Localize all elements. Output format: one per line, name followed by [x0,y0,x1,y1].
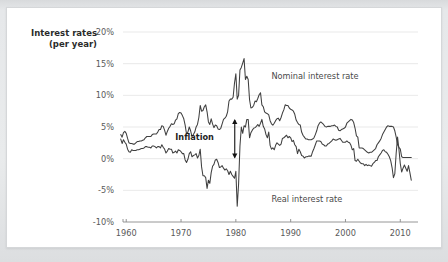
y-axis-title-line1: Interest rates [31,28,97,38]
inflation-arrow-head-down [232,153,237,158]
y-axis-title-line2: (per year) [49,39,97,49]
y-tick-label-20: 20% [96,27,114,37]
series-line-real [121,119,412,206]
nominal-label: Nominal interest rate [271,71,358,81]
y-tick-label-5: 5% [101,122,114,132]
x-tick-label-2010: 2010 [390,228,411,238]
x-tick-label-2000: 2000 [335,228,356,238]
chart-container: 20%15%10%5%0%-5%-10% 1960197019801990200… [7,8,441,247]
inflation-label: Inflation [175,132,214,142]
gridlines-group [123,32,418,190]
real-label: Real interest rate [271,194,342,204]
interest-rates-line-chart: 20%15%10%5%0%-5%-10% 1960197019801990200… [7,8,441,247]
series-lines-group [121,59,412,207]
y-tick-label-0: 0% [101,154,114,164]
y-tick-label--5: -5% [98,185,114,195]
y-tick-label-15: 15% [96,59,114,69]
inflation-arrow-head-up [232,119,237,124]
figure-card: 20%15%10%5%0%-5%-10% 1960197019801990200… [6,7,442,248]
series-line-nominal [121,59,412,158]
y-tick-label--10: -10% [93,217,114,227]
screenshot-root: 20%15%10%5%0%-5%-10% 1960197019801990200… [0,0,448,262]
x-tick-labels-group: 196019701980199020002010 [116,228,411,238]
y-tick-labels-group: 20%15%10%5%0%-5%-10% [93,27,114,227]
x-tick-label-1980: 1980 [225,228,246,238]
axes-group [123,219,418,222]
y-tick-label-10: 10% [96,90,114,100]
x-tick-label-1990: 1990 [280,228,301,238]
x-tick-label-1960: 1960 [116,228,137,238]
x-tick-label-1970: 1970 [171,228,192,238]
